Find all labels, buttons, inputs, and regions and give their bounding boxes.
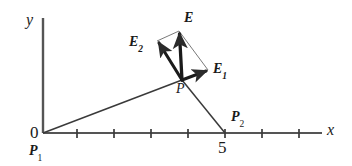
vector-e1-letter: E [213, 61, 222, 76]
x-axis-label: x [327, 122, 334, 138]
construction-line-e2-to-e [157, 31, 179, 41]
point-p1-subscript: 1 [38, 153, 43, 163]
point-p1-label: P1 [29, 144, 42, 161]
vector-e2-letter: E [129, 34, 138, 49]
point-p2-subscript: 2 [240, 119, 245, 129]
construction-line-e-to-e1 [179, 31, 208, 70]
point-p2-letter: P [231, 109, 240, 124]
point-p-label: P [176, 82, 185, 96]
vector-field-diagram: y x 0 P1 P P2 5 E E1 E2 [0, 0, 352, 166]
point-p1-letter: P [29, 143, 38, 158]
vector-e1-subscript: 1 [222, 71, 227, 81]
vector-e2-subscript: 2 [138, 44, 143, 54]
vector-e1-arrow [182, 71, 206, 80]
line-p-to-p2 [182, 80, 225, 133]
line-p1-to-p [43, 80, 182, 133]
point-p2-label: P2 [231, 110, 244, 127]
vector-e2-label: E2 [129, 35, 143, 52]
origin-label: 0 [30, 124, 39, 141]
x-tick-label-5: 5 [218, 139, 227, 156]
vector-e-label: E [184, 11, 193, 25]
vector-e-arrow [180, 34, 183, 80]
y-axis-label: y [26, 12, 33, 28]
vector-e1-label: E1 [213, 62, 227, 79]
vector-e2-arrow [159, 43, 182, 80]
